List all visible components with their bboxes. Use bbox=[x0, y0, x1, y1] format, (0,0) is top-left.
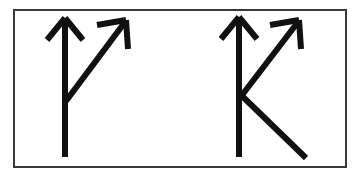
rune-glyph-canvas bbox=[0, 0, 362, 179]
glyph-right-diagonal-arrowhead-right-barb bbox=[299, 20, 301, 49]
figure-root: A thin black rectangular frame on a whit… bbox=[0, 0, 362, 179]
glyph-left-diagonal-arrowhead-right-barb bbox=[126, 20, 128, 49]
